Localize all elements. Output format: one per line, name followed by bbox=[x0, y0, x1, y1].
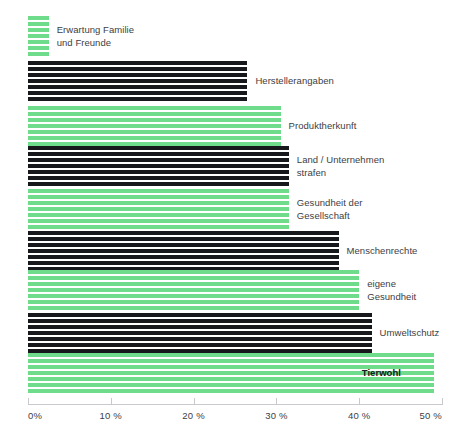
x-axis-tick-mark bbox=[442, 398, 443, 405]
bar bbox=[28, 231, 339, 272]
bar-row: Menschenrechte bbox=[0, 231, 474, 272]
x-axis-tick-mark bbox=[359, 398, 360, 405]
bar bbox=[28, 313, 372, 354]
x-axis-tick-mark bbox=[28, 398, 29, 405]
plot-area: Erwartung Familie und FreundeHerstellera… bbox=[0, 0, 474, 396]
x-axis-tick-label: 50 % bbox=[420, 410, 442, 421]
bar-row: Umweltschutz bbox=[0, 313, 474, 354]
bar-row: eigene Gesundheit bbox=[0, 270, 474, 311]
x-axis-tick-mark bbox=[194, 398, 195, 405]
bar-row: Erwartung Familie und Freunde bbox=[0, 16, 474, 57]
bar-label: Umweltschutz bbox=[372, 327, 440, 340]
bar-label: Gesundheit der Gesellschaft bbox=[289, 197, 363, 222]
x-axis-tick-mark bbox=[276, 398, 277, 405]
bar-row: Produktherkunft bbox=[0, 106, 474, 147]
bar-row: Land / Unternehmen strafen bbox=[0, 146, 474, 187]
bar-label: Produktherkunft bbox=[281, 120, 357, 133]
x-axis-line bbox=[28, 404, 442, 405]
bar-label: Herstellerangaben bbox=[247, 75, 333, 88]
x-axis-tick-label: 0% bbox=[28, 410, 42, 421]
bar-label: Land / Unternehmen strafen bbox=[289, 154, 385, 179]
bar bbox=[28, 16, 49, 57]
bar-row: Gesundheit der Gesellschaft bbox=[0, 189, 474, 230]
x-axis-tick-label: 10 % bbox=[100, 410, 122, 421]
bar bbox=[28, 106, 281, 147]
bar-label: Menschenrechte bbox=[339, 245, 418, 258]
x-axis: 0%10 %20 %30 %40 %50 % bbox=[0, 396, 474, 444]
bar bbox=[28, 61, 247, 102]
bar bbox=[28, 189, 289, 230]
bar-row: Herstellerangaben bbox=[0, 61, 474, 102]
bar-label: Tierwohl bbox=[362, 367, 401, 380]
bar-label: Erwartung Familie und Freunde bbox=[49, 24, 134, 49]
x-axis-tick-label: 20 % bbox=[182, 410, 204, 421]
bar-row: Tierwohl bbox=[0, 353, 474, 394]
bar bbox=[28, 270, 359, 311]
bar-chart: Erwartung Familie und FreundeHerstellera… bbox=[0, 0, 474, 444]
x-axis-tick-label: 40 % bbox=[348, 410, 370, 421]
x-axis-tick-label: 30 % bbox=[265, 410, 287, 421]
bar-label: eigene Gesundheit bbox=[359, 278, 416, 303]
x-axis-tick-mark bbox=[111, 398, 112, 405]
bar bbox=[28, 146, 289, 187]
